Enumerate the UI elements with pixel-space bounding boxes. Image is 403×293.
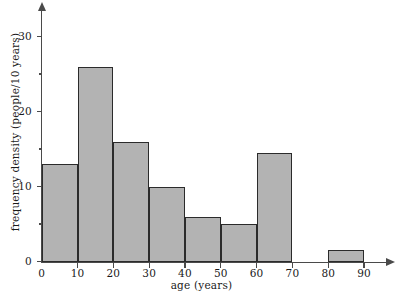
histogram-bar — [257, 153, 293, 262]
y-tick-major — [37, 111, 42, 112]
x-axis-title: age (years) — [0, 279, 403, 291]
x-tick-label: 70 — [277, 268, 307, 279]
x-tick-label: 40 — [170, 268, 200, 279]
x-tick-label: 60 — [242, 268, 272, 279]
histogram-bar — [42, 164, 78, 262]
y-tick-major — [37, 36, 42, 37]
x-axis-line — [41, 262, 388, 263]
histogram-bar — [149, 187, 185, 262]
y-tick-minor — [39, 148, 43, 149]
histogram-bar — [113, 142, 149, 262]
x-axis-arrow-icon — [386, 258, 395, 266]
x-tick-label: 30 — [134, 268, 164, 279]
x-tick-label: 50 — [206, 268, 236, 279]
plot-area: 0102030 0102030405060708090 age (years) … — [0, 0, 403, 293]
x-tick-label: 0 — [27, 268, 57, 279]
x-tick-label: 10 — [63, 268, 93, 279]
histogram-bar — [328, 250, 364, 261]
histogram-bar — [221, 224, 257, 262]
y-axis-arrow-icon — [38, 2, 46, 11]
y-tick-label: 0 — [10, 256, 32, 267]
histogram-bar — [78, 67, 114, 262]
histogram-figure: 0102030 0102030405060708090 age (years) … — [0, 0, 403, 293]
x-tick-label: 90 — [349, 268, 379, 279]
histogram-bar — [185, 217, 221, 262]
x-tick-label: 80 — [313, 268, 343, 279]
y-axis-title: frequency density (people/10 years) — [9, 22, 21, 242]
y-tick-minor — [39, 73, 43, 74]
x-tick-label: 20 — [98, 268, 128, 279]
